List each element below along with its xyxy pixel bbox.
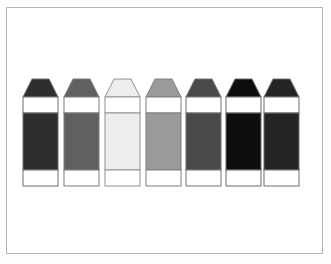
- crayon-upper-band-6: [226, 97, 261, 113]
- crayon-4[interactable]: [146, 79, 181, 186]
- crayon-lower-band-2: [64, 170, 99, 186]
- crayon-body-7: [264, 113, 299, 170]
- crayon-tip-6: [226, 79, 261, 97]
- crayon-graphic-4: [146, 79, 181, 186]
- crayon-tip-4: [146, 79, 181, 97]
- crayon-3[interactable]: [105, 79, 140, 186]
- crayon-tip-5: [186, 79, 221, 97]
- crayon-lower-band-5: [186, 170, 221, 186]
- crayon-graphic-7: [264, 79, 299, 186]
- crayon-lower-band-6: [226, 170, 261, 186]
- crayon-7[interactable]: [264, 79, 299, 186]
- crayon-tip-1: [23, 79, 58, 97]
- crayon-body-2: [64, 113, 99, 170]
- crayon-5[interactable]: [186, 79, 221, 186]
- crayon-tip-7: [264, 79, 299, 97]
- crayon-body-6: [226, 113, 261, 170]
- crayon-graphic-1: [23, 79, 58, 186]
- figure-canvas: [0, 0, 331, 264]
- crayon-graphic-6: [226, 79, 261, 186]
- crayon-lower-band-4: [146, 170, 181, 186]
- crayon-lower-band-7: [264, 170, 299, 186]
- crayon-body-5: [186, 113, 221, 170]
- crayon-upper-band-7: [264, 97, 299, 113]
- crayon-upper-band-4: [146, 97, 181, 113]
- crayon-2[interactable]: [64, 79, 99, 186]
- crayon-1[interactable]: [23, 79, 58, 186]
- crayon-upper-band-5: [186, 97, 221, 113]
- crayon-body-3: [105, 113, 140, 170]
- crayon-lower-band-3: [105, 170, 140, 186]
- crayon-graphic-3: [105, 79, 140, 186]
- crayon-lower-band-1: [23, 170, 58, 186]
- crayon-graphic-2: [64, 79, 99, 186]
- crayon-tip-2: [64, 79, 99, 97]
- crayon-tip-3: [105, 79, 140, 97]
- crayon-body-4: [146, 113, 181, 170]
- crayon-upper-band-3: [105, 97, 140, 113]
- crayon-row: [0, 0, 331, 264]
- crayon-upper-band-2: [64, 97, 99, 113]
- crayon-upper-band-1: [23, 97, 58, 113]
- crayon-graphic-5: [186, 79, 221, 186]
- crayon-6[interactable]: [226, 79, 261, 186]
- crayon-body-1: [23, 113, 58, 170]
